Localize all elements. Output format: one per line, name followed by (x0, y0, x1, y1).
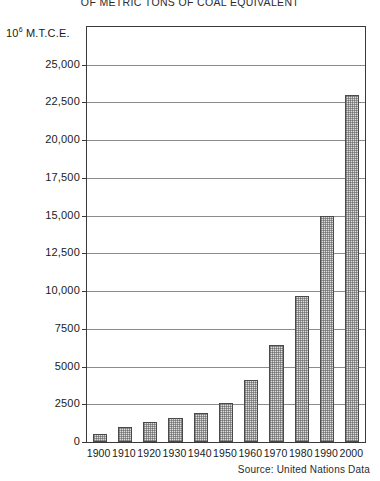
x-axis-tick-label: 1940 (188, 447, 212, 459)
x-axis-tick-labels: 1900191019201930194019501960197019801990… (86, 447, 366, 463)
bar (143, 422, 157, 442)
bar (244, 380, 258, 442)
y-axis-tick-label: 12,500 (45, 246, 80, 258)
y-axis-tick-labels: 025005000750010,00012,50015,00017,50020,… (0, 26, 80, 443)
bar (168, 418, 182, 442)
x-axis-tick-label: 1990 (314, 447, 338, 459)
x-axis-tick-label: 1930 (163, 447, 187, 459)
bar-series (87, 27, 365, 442)
x-axis-tick-label: 1950 (213, 447, 237, 459)
y-axis-tick-label: 22,500 (45, 95, 80, 107)
y-axis-tick (82, 442, 87, 443)
x-axis-tick-label: 1920 (137, 447, 161, 459)
y-axis-tick-label: 15,000 (45, 209, 80, 221)
x-axis-tick-label: 2000 (339, 447, 363, 459)
y-axis-tick-label: 10,000 (45, 284, 80, 296)
bar (269, 345, 283, 442)
bar (219, 403, 233, 442)
plot-area (86, 26, 366, 443)
bar (345, 95, 359, 442)
x-axis-tick-label: 1900 (87, 447, 111, 459)
bar (295, 296, 309, 442)
y-axis-tick-label: 17,500 (45, 171, 80, 183)
source-note: Source: United Nations Data (238, 464, 370, 475)
x-axis-tick-label: 1970 (264, 447, 288, 459)
bar (118, 427, 132, 442)
y-axis-tick-label: 5000 (55, 360, 80, 372)
x-axis-tick-label: 1910 (112, 447, 136, 459)
y-axis-tick-label: 7500 (55, 322, 80, 334)
x-axis-tick-label: 1960 (238, 447, 262, 459)
y-axis-tick-label: 2500 (55, 397, 80, 409)
y-axis-tick-label: 20,000 (45, 133, 80, 145)
y-axis-tick-label: 0 (74, 435, 80, 447)
x-axis-tick-label: 1980 (289, 447, 313, 459)
bar (194, 413, 208, 442)
chart-title: OF METRIC TONS OF COAL EQUIVALENT (0, 0, 380, 8)
bar (93, 434, 107, 442)
bar (320, 216, 334, 442)
y-axis-tick-label: 25,000 (45, 58, 80, 70)
